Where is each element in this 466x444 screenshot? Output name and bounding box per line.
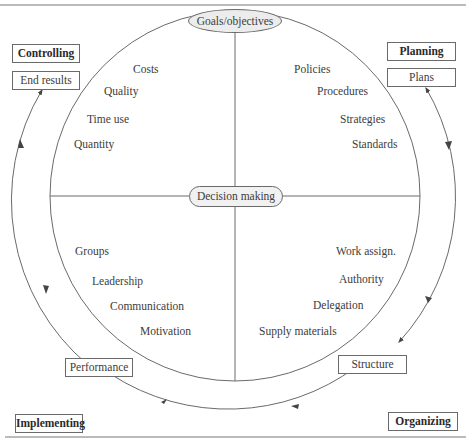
- quadrant-item: Costs: [133, 64, 159, 76]
- quadrant-item: Communication: [110, 301, 184, 313]
- implementing-box: Implementing: [15, 414, 83, 433]
- management-cycle-diagram: Goals/objectives Decision making Control…: [0, 0, 466, 444]
- controlling-box: Controlling: [12, 44, 80, 63]
- planning-box: Planning: [387, 42, 456, 61]
- quadrant-item: Quality: [104, 86, 139, 98]
- quadrant-item: Quantity: [74, 139, 114, 151]
- quadrant-item: Supply materials: [259, 326, 337, 338]
- quadrant-item: Groups: [75, 246, 109, 258]
- quadrant-item: Motivation: [140, 326, 191, 338]
- goals-objectives-node: Goals/objectives: [188, 9, 282, 33]
- end-results-box: End results: [12, 71, 80, 90]
- quadrant-item: Delegation: [313, 300, 363, 312]
- diagram-lines: [0, 0, 466, 444]
- quadrant-item: Standards: [352, 139, 397, 151]
- arc-organizing-to-implementing: [112, 367, 356, 409]
- arc-implementing-to-controlling: [11, 90, 88, 365]
- quadrant-item: Leadership: [92, 276, 143, 288]
- quadrant-item: Strategies: [340, 114, 385, 126]
- quadrant-item: Procedures: [317, 86, 368, 98]
- arrowhead-left-lower: [43, 285, 49, 294]
- structure-box: Structure: [338, 355, 407, 374]
- arrowhead-right-upper: [445, 141, 452, 150]
- organizing-box: Organizing: [388, 412, 458, 431]
- arc-planning-to-organizing: [399, 88, 456, 342]
- decision-making-node: Decision making: [189, 186, 283, 207]
- quadrant-item: Time use: [87, 114, 129, 126]
- plans-box: Plans: [387, 68, 456, 87]
- quadrant-item: Policies: [294, 64, 330, 76]
- quadrant-item: Work assign.: [336, 246, 396, 258]
- arrowhead-bottom-right: [291, 404, 299, 409]
- quadrant-item: Authority: [339, 274, 384, 286]
- performance-box: Performance: [65, 358, 133, 377]
